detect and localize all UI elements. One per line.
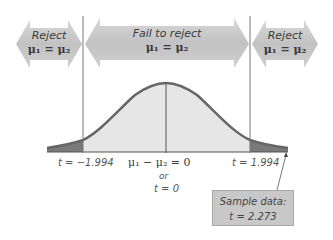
center-arrow-line2: μ₁ = μ₂ <box>85 41 249 55</box>
sample-data-title: Sample data: <box>213 194 293 209</box>
right-arrow-label: Reject μ₁ = μ₂ <box>252 29 318 57</box>
right-arrow-line2: μ₁ = μ₂ <box>252 43 318 57</box>
left-arrow-line2: μ₁ = μ₂ <box>16 43 82 57</box>
left-critical-label: t = −1.994 <box>58 157 114 168</box>
center-t-label: t = 0 <box>154 183 179 194</box>
sample-data-value: t = 2.273 <box>213 209 293 224</box>
right-arrow-line1: Reject <box>252 29 318 43</box>
left-arrow-label: Reject μ₁ = μ₂ <box>16 29 82 57</box>
center-arrow-line1: Fail to reject <box>85 27 249 41</box>
center-arrow-label: Fail to reject μ₁ = μ₂ <box>85 27 249 55</box>
center-mean-diff-label: μ₁ − μ₂ = 0 <box>128 156 191 169</box>
sample-data-box: Sample data: t = 2.273 <box>212 190 294 226</box>
sample-pointer-arrowhead <box>284 152 288 157</box>
right-critical-label: t = 1.994 <box>232 157 279 168</box>
center-or-label: or <box>159 171 168 181</box>
left-arrow-line1: Reject <box>16 29 82 43</box>
